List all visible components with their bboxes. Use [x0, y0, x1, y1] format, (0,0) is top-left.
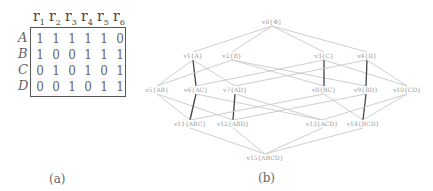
lattice-node-label: v10{CD}: [392, 86, 421, 93]
lattice-edge: [324, 94, 363, 120]
lattice-node-label: v14{BCD}: [346, 120, 380, 127]
lattice-node-label: v12{ABD}: [216, 120, 249, 127]
lattice-node-label: v4{D}: [356, 52, 377, 59]
lattice-edge: [233, 128, 265, 154]
lattice-node-label: v13{ACD}: [305, 120, 339, 127]
lattice-edge: [157, 94, 190, 120]
lattice-node-label: v1{A}: [182, 52, 202, 59]
lattice-edge: [363, 94, 407, 120]
lattice-edge: [196, 60, 324, 86]
caption-b: (b): [258, 171, 275, 185]
lattice-node-label: v6{AC}: [183, 86, 208, 93]
lattice-edge: [157, 60, 232, 86]
lattice-edge: [233, 94, 366, 120]
lattice-node-label: v9{BD}: [353, 86, 378, 93]
lattice-node-label: v11{ABC}: [173, 120, 206, 127]
lattice-node-label: v2{B}: [221, 52, 241, 59]
lattice-node-label: v3{C}: [313, 52, 334, 59]
lattice-node-label: v15{ABCD}: [246, 154, 284, 161]
lattice-edge: [193, 26, 272, 52]
subset-lattice-panel-b: v0{Φ}v1{A}v2{B}v3{C}v4{D}v5{AB}v6{AC}v7{…: [0, 0, 433, 191]
lattice-edge: [232, 60, 324, 86]
lattice-edge: [272, 26, 367, 52]
lattice-edge: [235, 94, 322, 120]
lattice-edge: [232, 26, 272, 52]
lattice-edge: [322, 94, 407, 120]
lattice-edge: [272, 26, 324, 52]
lattice-edge: [157, 60, 193, 86]
lattice-node-label: v7{AD}: [222, 86, 247, 93]
lattice-edge: [190, 128, 265, 154]
lattice-node-label: v0{Φ}: [261, 18, 282, 25]
lattice-edge: [367, 60, 407, 86]
lattice-node-label: v8{BC}: [311, 86, 336, 93]
lattice-node-label: v5{AB}: [144, 86, 169, 93]
lattice-edge: [233, 94, 235, 120]
lattice-edge: [366, 60, 367, 86]
